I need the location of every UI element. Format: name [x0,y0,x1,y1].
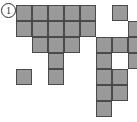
grid-cell [32,5,48,21]
grid-cell [80,21,96,37]
grid-cell [112,5,128,21]
grid-cell [48,37,64,53]
grid-cell [112,37,128,53]
grid-cell [48,21,64,37]
grid-cell [96,69,112,85]
grid-cell [64,5,80,21]
polyomino-grid [0,0,137,122]
grid-cell [112,85,128,101]
grid-cell [96,37,112,53]
grid-cell [64,21,80,37]
grid-cell [112,69,128,85]
grid-cell [16,69,32,85]
grid-cell [16,5,32,21]
grid-cell [48,5,64,21]
grid-cell [32,21,48,37]
grid-cell [128,53,137,69]
grid-cell [96,53,112,69]
figure-container: 1 [0,0,137,122]
grid-cell [96,101,112,117]
grid-cell [48,69,64,85]
grid-cell [32,37,48,53]
grid-cell [64,37,80,53]
grid-cell [128,21,137,37]
grid-cell [16,21,32,37]
grid-cell [128,37,137,53]
grid-cell [48,53,64,69]
grid-cell [96,85,112,101]
grid-cell [80,5,96,21]
